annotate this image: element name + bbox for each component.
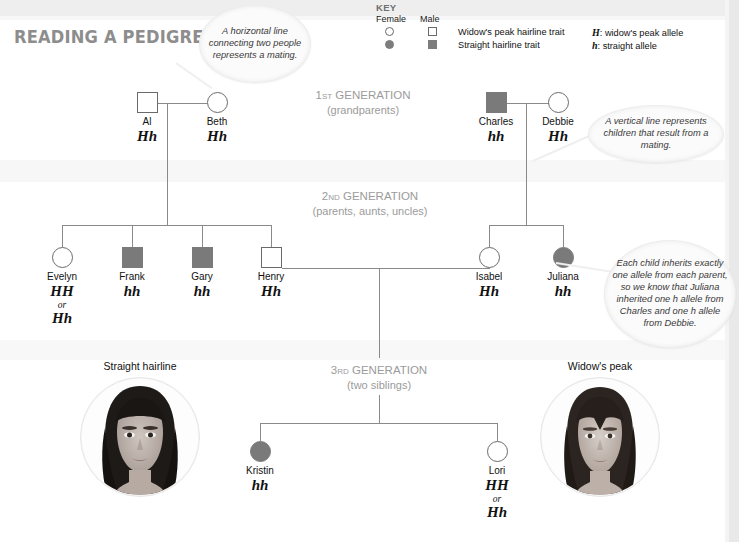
person-henry[interactable]: Henry Hh [236,247,306,300]
sibship-bar-gen2-left [62,225,272,226]
page-band-3 [0,340,739,360]
allele-H-text: : widow's peak allele [600,28,683,38]
genotype-primary: HH [50,283,73,299]
key-allele-h: h: straight allele [592,40,657,51]
symbol-male-affected [122,247,143,268]
photo-circle [540,377,660,497]
symbol-male-unaffected [137,92,158,113]
symbol-male-unaffected [261,247,282,268]
person-genotype: Hh [236,284,306,300]
symbol-male-affected [486,92,507,113]
descent-line-gen3 [379,395,380,423]
person-genotype: hh [167,284,237,300]
gen2-sub: (parents, aunts, uncles) [290,204,450,219]
person-genotype: hh [97,284,167,300]
sibship-bar-gen3 [260,423,498,424]
person-name: Al [112,116,182,127]
person-isabel[interactable]: Isabel Hh [454,247,524,300]
stub-frank [132,225,133,247]
gen1-sub: (grandparents) [300,103,426,118]
stub-lori [497,423,498,441]
page-title: READING A PEDIGREE [14,27,215,47]
person-name: Gary [167,271,237,282]
symbol-female-unaffected [52,247,73,268]
allele-H-letter: H [592,27,600,38]
person-juliana[interactable]: Juliana hh [528,247,598,300]
gen2-suffix: ND [328,193,340,202]
callout-children: A vertical line represents children that… [588,105,724,163]
person-al[interactable]: Al Hh [112,92,182,145]
person-genotype: HH or Hh [27,284,97,327]
key-legend: KEY Female Male Widow's peak hairline tr… [376,2,726,13]
gen3-suffix: RD [337,367,349,376]
person-name: Beth [182,116,252,127]
gen2-word: GENERATION [343,190,418,202]
callout-mating-text: A horizontal line connecting two people … [206,26,304,62]
generation-label-3: 3RD GENERATION (two siblings) [306,363,452,393]
gen3-sub: (two siblings) [306,378,452,393]
person-name: Henry [236,271,306,282]
person-genotype: Hh [454,284,524,300]
symbol-female-unaffected [207,92,228,113]
person-name: Juliana [528,271,598,282]
key-col-female: Female [376,14,406,24]
key-heading: KEY [376,2,726,13]
stub-henry [271,225,272,247]
open-circle-icon [385,27,394,36]
symbol-female-affected [250,441,271,462]
allele-h-text: : straight allele [598,41,657,51]
stub-juliana [563,225,564,247]
person-genotype: hh [461,129,531,145]
open-square-icon [428,27,437,36]
page-band-1 [0,16,739,20]
person-charles[interactable]: Charles hh [461,92,531,145]
symbol-female-unaffected [479,247,500,268]
callout-tail-mating [176,62,213,89]
photo-widows-peak: Widow's peak [520,360,680,497]
descent-line-henry-isabel [379,268,380,358]
key-col-male: Male [420,14,440,24]
generation-label-2: 2ND GENERATION (parents, aunts, uncles) [290,189,450,219]
key-trait-straight: Straight hairline trait [458,40,540,50]
person-name: Evelyn [27,271,97,282]
genotype-alt: Hh [52,310,72,326]
page-band-2 [0,160,739,182]
callout-alleles: Each child inherits exactly one allele f… [604,240,736,348]
person-genotype: Hh [112,129,182,145]
person-name: Debbie [523,116,593,127]
generation-label-1: 1ST GENERATION (grandparents) [300,88,426,118]
key-allele-H: H: widow's peak allele [592,27,683,38]
symbol-female-unaffected [548,92,569,113]
person-name: Frank [97,271,167,282]
page-edge-right [729,0,739,542]
person-evelyn[interactable]: Evelyn HH or Hh [27,247,97,327]
sibship-bar-gen2-right [489,225,564,226]
symbol-female-unaffected [487,441,508,462]
person-gary[interactable]: Gary hh [167,247,237,300]
stub-kristin [260,423,261,441]
person-genotype: hh [528,284,598,300]
person-genotype: hh [225,478,295,494]
symbol-male-affected [192,247,213,268]
person-name: Charles [461,116,531,127]
stub-gary [202,225,203,247]
callout-alleles-text: Each child inherits exactly one allele f… [611,258,729,329]
photo-circle [80,377,200,497]
photo-label: Widow's peak [520,360,680,372]
gen1-word: GENERATION [335,89,410,101]
photo-straight-hairline: Straight hairline [60,360,220,497]
filled-square-icon [428,40,437,49]
filled-circle-icon [385,40,394,49]
gen3-word: GENERATION [352,364,427,376]
photo-label: Straight hairline [60,360,220,372]
stub-evelyn [62,225,63,247]
person-frank[interactable]: Frank hh [97,247,167,300]
genotype-primary: HH [485,477,508,493]
gen1-suffix: ST [322,92,332,101]
person-beth[interactable]: Beth Hh [182,92,252,145]
callout-mating: A horizontal line connecting two people … [199,5,311,83]
person-genotype: Hh [182,129,252,145]
person-kristin[interactable]: Kristin hh [225,441,295,494]
person-name: Kristin [225,465,295,476]
person-name: Isabel [454,271,524,282]
